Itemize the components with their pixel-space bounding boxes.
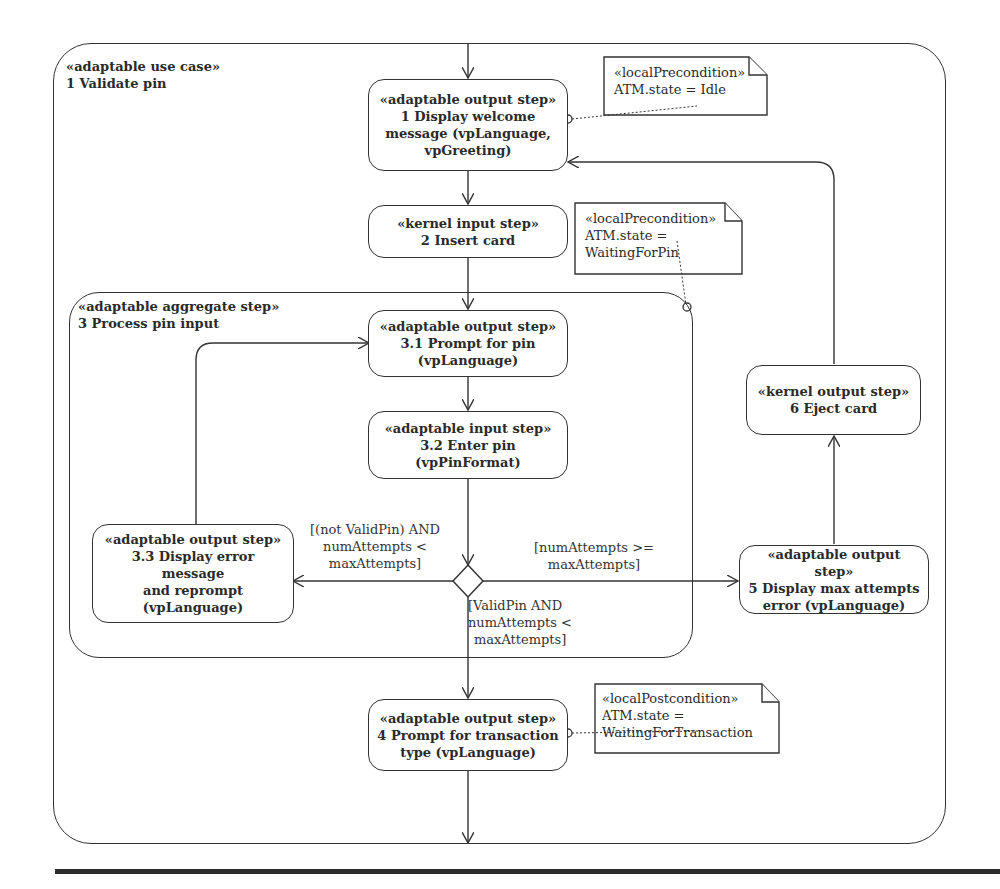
guard-text: numAttempts < — [305, 538, 445, 555]
note-text: WaitingForPin — [585, 244, 716, 261]
aggregate-name: 3 Process pin input — [78, 315, 279, 332]
use-case-title: «adaptable use case» 1 Validate pin — [66, 58, 220, 92]
guard-text: [(not ValidPin) AND — [305, 521, 445, 538]
note-precondition-waiting-for-pin: «localPrecondition» ATM.state = WaitingF… — [585, 210, 716, 261]
guard-text: maxAttempts] — [305, 555, 445, 572]
use-case-stereotype: «adaptable use case» — [66, 58, 220, 75]
step-label: error (vpLanguage) — [763, 597, 905, 614]
step-label: (vpLanguage) — [143, 599, 243, 616]
guard-valid-pin: [ValidPin AND numAttempts < maxAttempts] — [468, 597, 588, 648]
step-label: 4 Prompt for transaction — [377, 727, 558, 744]
step-stereotype: «kernel output step» — [758, 383, 909, 400]
step-4-prompt-for-transaction[interactable]: «adaptable output step» 4 Prompt for tra… — [368, 699, 568, 771]
note-postcondition-waiting-for-transaction: «localPostcondition» ATM.state = Waiting… — [602, 690, 753, 741]
step-5-display-max-attempts[interactable]: «adaptable output step» 5 Display max at… — [739, 545, 929, 614]
guard-text: numAttempts < — [468, 614, 588, 631]
step-label: 3.2 Enter pin — [420, 437, 516, 454]
step-label: 2 Insert card — [421, 232, 515, 249]
guard-max-attempts: [numAttempts >= maxAttempts] — [524, 539, 664, 573]
note-stereotype: «localPrecondition» — [585, 210, 716, 227]
step-stereotype: «adaptable output step» — [105, 531, 281, 548]
step-stereotype: «adaptable output step» — [380, 710, 556, 727]
step-label: 3.1 Prompt for pin — [401, 335, 536, 352]
step-label: 1 Display welcome — [401, 108, 536, 125]
guard-text: maxAttempts] — [524, 556, 664, 573]
aggregate-stereotype: «adaptable aggregate step» — [78, 298, 279, 315]
step-stereotype: «kernel input step» — [397, 215, 539, 232]
guard-text: [ValidPin AND — [468, 597, 588, 614]
note-text: ATM.state = Idle — [614, 81, 745, 98]
note-text: WaitingForTransaction — [602, 724, 753, 741]
note-precondition-idle: «localPrecondition» ATM.state = Idle — [614, 64, 745, 98]
step-label: (vpPinFormat) — [415, 454, 520, 471]
step-label: type (vpLanguage) — [400, 744, 536, 761]
step-2-insert-card[interactable]: «kernel input step» 2 Insert card — [368, 205, 568, 258]
guard-retry: [(not ValidPin) AND numAttempts < maxAtt… — [305, 521, 445, 572]
step-label: vpGreeting) — [425, 142, 512, 159]
aggregate-step-title: «adaptable aggregate step» 3 Process pin… — [78, 298, 279, 332]
step-stereotype: «adaptable output step» — [380, 318, 556, 335]
step-label: message (vpLanguage, — [385, 125, 551, 142]
note-text: ATM.state = — [585, 227, 716, 244]
note-stereotype: «localPostcondition» — [602, 690, 753, 707]
note-stereotype: «localPrecondition» — [614, 64, 745, 81]
guard-text: [numAttempts >= — [524, 539, 664, 556]
step-1-display-welcome[interactable]: «adaptable output step» 1 Display welcom… — [368, 79, 568, 171]
step-stereotype: «adaptable output step» — [746, 546, 922, 580]
step-6-eject-card[interactable]: «kernel output step» 6 Eject card — [746, 365, 921, 435]
step-label: 3.3 Display error message — [99, 548, 287, 582]
step-stereotype: «adaptable input step» — [385, 420, 552, 437]
step-label: 6 Eject card — [790, 400, 877, 417]
step-3-2-enter-pin[interactable]: «adaptable input step» 3.2 Enter pin (vp… — [368, 411, 568, 479]
step-label: and reprompt — [143, 582, 243, 599]
step-3-1-prompt-for-pin[interactable]: «adaptable output step» 3.1 Prompt for p… — [368, 310, 568, 377]
page-divider-rule — [55, 869, 1000, 874]
step-stereotype: «adaptable output step» — [380, 91, 556, 108]
guard-text: maxAttempts] — [468, 631, 588, 648]
step-label: (vpLanguage) — [418, 352, 518, 369]
note-text: ATM.state = — [602, 707, 753, 724]
step-label: 5 Display max attempts — [749, 580, 920, 597]
use-case-name: 1 Validate pin — [66, 75, 220, 92]
step-3-3-display-error[interactable]: «adaptable output step» 3.3 Display erro… — [92, 524, 294, 623]
